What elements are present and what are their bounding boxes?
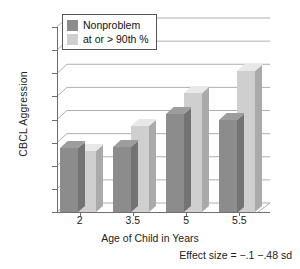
y-tick-mark [52, 96, 57, 97]
bar-side-face [131, 141, 138, 212]
legend-label: Nonproblem [83, 19, 140, 31]
x-tick-mark [80, 212, 81, 216]
effect-size-annotation: Effect size = −.1 −.48 sd [0, 249, 292, 261]
bar [113, 147, 131, 212]
legend-item: at or > 90th % [67, 32, 149, 46]
bar [166, 114, 184, 212]
bar [60, 148, 78, 212]
y-axis-title: CBCL Aggression [17, 39, 29, 189]
legend-swatch-nonproblem [67, 20, 78, 31]
y-tick-mark [52, 120, 57, 121]
chart-container: CBCL Aggression 525456586062646668 23.55… [0, 0, 300, 269]
legend-label: at or > 90th % [83, 33, 149, 45]
legend-item: Nonproblem [67, 18, 149, 32]
y-tick-mark [52, 73, 57, 74]
chart-legend: Nonproblem at or > 90th % [62, 14, 157, 50]
bar [219, 120, 237, 213]
bar-front-face [219, 120, 237, 213]
bar-side-face [149, 120, 156, 212]
y-tick-mark [52, 189, 57, 190]
y-tick-mark [52, 212, 57, 213]
y-axis-line [57, 27, 58, 212]
x-tick-mark [186, 212, 187, 216]
y-tick-mark [52, 143, 57, 144]
x-tick-mark [133, 212, 134, 216]
legend-swatch-at-or-above-90th [67, 34, 78, 45]
bar-front-face [113, 147, 131, 212]
y-tick-mark [52, 27, 57, 28]
y-tick-mark [52, 166, 57, 167]
bar-front-face [60, 148, 78, 212]
x-axis-title: Age of Child in Years [0, 232, 300, 244]
x-tick-mark [239, 212, 240, 216]
x-axis-line [57, 212, 270, 213]
bar-side-face [184, 108, 191, 212]
bar-front-face [166, 114, 184, 212]
bar-side-face [202, 87, 209, 212]
plot-area [57, 27, 270, 212]
bar-side-face [255, 65, 262, 212]
bar-side-face [96, 145, 103, 212]
bar-side-face [237, 113, 244, 212]
y-tick-mark [52, 50, 57, 51]
bar-side-face [78, 142, 85, 212]
